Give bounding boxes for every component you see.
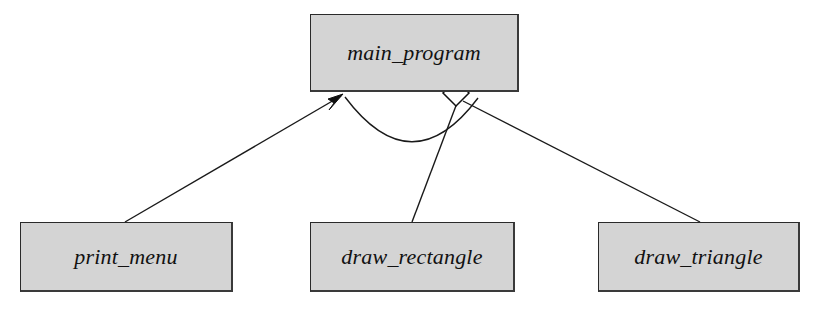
connector-line-draw-triangle [463,101,700,222]
node-label-draw-triangle: draw_triangle [634,246,763,268]
node-label-draw-rectangle: draw_rectangle [341,246,482,268]
node-draw-triangle[interactable]: draw_triangle [598,222,800,292]
connector-main-to-draw-rectangle[interactable] [412,103,457,222]
node-label-print-menu: print_menu [74,246,177,268]
node-draw-rectangle[interactable]: draw_rectangle [310,222,515,292]
uml-diagram-canvas: main_program print_menu draw_rectangle d… [0,0,818,311]
connector-print-menu-to-main[interactable] [125,94,343,222]
node-main-program[interactable]: main_program [310,14,519,92]
node-print-menu[interactable]: print_menu [20,222,233,292]
connector-main-to-draw-triangle[interactable] [463,101,700,222]
node-label-main-program: main_program [347,42,481,64]
connector-line-print-menu [125,96,341,222]
connector-line-draw-rectangle [412,103,457,222]
